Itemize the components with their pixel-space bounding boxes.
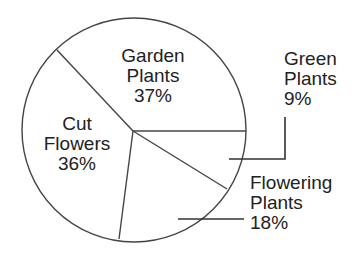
label-cut-flowers: Cut Flowers 36% bbox=[32, 114, 122, 174]
label-flowering-plants: Flowering Plants 18% bbox=[250, 173, 332, 233]
label-cut-pct: 36% bbox=[32, 154, 122, 174]
label-garden-plants: Garden Plants 37% bbox=[108, 46, 198, 106]
label-garden-pct: 37% bbox=[108, 86, 198, 106]
label-green-pct: 9% bbox=[284, 89, 337, 109]
label-green-plants: Green Plants 9% bbox=[284, 49, 337, 109]
label-garden-line2: Plants bbox=[108, 66, 198, 86]
label-green-line2: Plants bbox=[284, 69, 337, 89]
label-cut-line2: Flowers bbox=[32, 134, 122, 154]
label-cut-line1: Cut bbox=[32, 114, 122, 134]
label-flowering-line2: Plants bbox=[250, 193, 332, 213]
label-flowering-pct: 18% bbox=[250, 213, 332, 233]
label-flowering-line1: Flowering bbox=[250, 173, 332, 193]
label-garden-line1: Garden bbox=[108, 46, 198, 66]
label-green-line1: Green bbox=[284, 49, 337, 69]
